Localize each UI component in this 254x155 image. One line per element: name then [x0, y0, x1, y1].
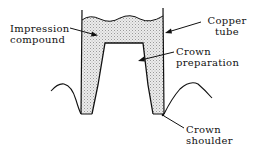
- left-gingiva-contour: [51, 84, 81, 114]
- label-crown-preparation: Crown preparation: [176, 46, 239, 68]
- arrowhead-icon: [165, 29, 172, 34]
- copper-tube-leader: [168, 22, 201, 32]
- shoulder-point-marker: [162, 114, 165, 117]
- label-copper-tube: Copper tube: [205, 15, 249, 37]
- right-gingiva-contour: [164, 83, 212, 114]
- impression-compound-fill: [81, 16, 164, 114]
- label-crown-shoulder: Crown shoulder: [186, 124, 233, 146]
- label-impression-compound: Impression compound: [10, 23, 69, 45]
- arrowhead-icon: [138, 57, 145, 62]
- crown-shoulder-leader: [164, 116, 184, 128]
